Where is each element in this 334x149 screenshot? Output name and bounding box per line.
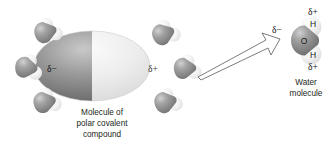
- hydrogen-label-top: H: [310, 19, 316, 29]
- oxygen-label: O: [301, 36, 308, 46]
- caption-line-3: compound: [83, 130, 122, 139]
- water-positive-label-bottom: δ+: [308, 62, 318, 72]
- water-molecule-caption: Water molecule: [290, 78, 323, 98]
- central-molecule-caption: Molecule of polar covalent compound: [77, 108, 129, 139]
- magnification-arrow: [198, 33, 280, 80]
- water-molecule-bottom-right: [151, 84, 184, 116]
- caption-line-1: Molecule of: [81, 108, 124, 117]
- molecule-negative-pole-label: δ−: [47, 64, 57, 74]
- hydrogen-label-bottom: H: [310, 50, 316, 60]
- water-molecule-mid-right: [173, 53, 202, 80]
- water-negative-label: δ−: [272, 25, 282, 35]
- water-positive-label-top: δ+: [308, 7, 318, 17]
- water-caption-line-1: Water: [295, 78, 317, 87]
- water-molecule-top-right: [148, 15, 183, 49]
- arrow-shape: [198, 33, 280, 80]
- figure-canvas: δ− δ+ Molecule of p: [0, 0, 334, 149]
- chemistry-figure: δ− δ+ Molecule of p: [0, 0, 334, 149]
- water-caption-line-2: molecule: [290, 89, 323, 98]
- caption-line-2: polar covalent: [77, 119, 129, 128]
- molecule-positive-pole-label: δ+: [148, 64, 158, 74]
